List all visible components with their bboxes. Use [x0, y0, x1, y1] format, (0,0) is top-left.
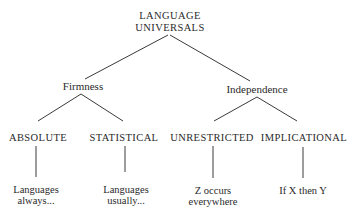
- edge-independence-unrestricted: [214, 97, 257, 121]
- leaf-statistical-line2: usually...: [103, 195, 148, 206]
- node-absolute: ABSOLUTE: [9, 132, 67, 144]
- leaf-implicational-line1: If X then Y: [279, 185, 327, 196]
- node-firmness: Firmness: [63, 80, 103, 92]
- root-label-line1: LANGUAGE: [135, 10, 204, 22]
- edge-root-independence: [170, 35, 250, 81]
- node-statistical: STATISTICAL: [90, 132, 159, 144]
- node-independence: Independence: [226, 83, 287, 95]
- root-label-line2: UNIVERSALS: [135, 22, 204, 34]
- leaf-absolute: Languages always...: [13, 184, 58, 206]
- edge-independence-implicational: [257, 97, 297, 121]
- leaf-statistical: Languages usually...: [103, 184, 148, 206]
- leaf-statistical-line1: Languages: [103, 184, 148, 195]
- language-universals-tree: LANGUAGE UNIVERSALS Firmness Independenc…: [0, 0, 355, 219]
- node-unrestricted: UNRESTRICTED: [170, 132, 254, 144]
- root-node: LANGUAGE UNIVERSALS: [135, 10, 204, 34]
- edge-firmness-statistical: [81, 94, 123, 121]
- leaf-unrestricted-line1: Z occurs: [189, 185, 238, 196]
- node-implicational: IMPLICATIONAL: [261, 132, 347, 144]
- leaf-unrestricted: Z occurs everywhere: [189, 185, 238, 207]
- edge-firmness-absolute: [38, 94, 81, 121]
- edge-root-firmness: [85, 35, 168, 79]
- leaf-unrestricted-line2: everywhere: [189, 196, 238, 207]
- leaf-implicational: If X then Y: [279, 185, 327, 196]
- leaf-absolute-line1: Languages: [13, 184, 58, 195]
- leaf-absolute-line2: always...: [13, 195, 58, 206]
